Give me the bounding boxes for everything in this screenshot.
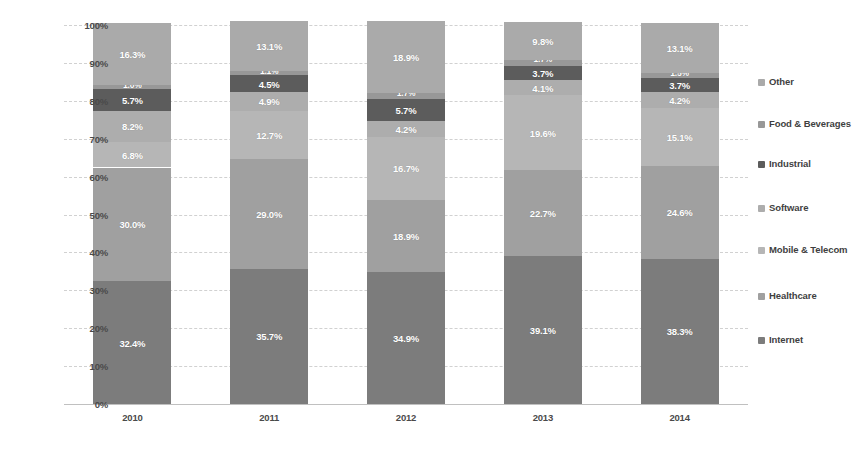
bar-column[interactable]: 39.1%22.7%19.6%4.1%3.7%1.7%9.8% [504, 25, 582, 404]
bar-segment[interactable]: 1.5% [641, 73, 719, 79]
bar-segment-value-label: 16.7% [367, 163, 445, 174]
y-tick-label: 90% [64, 57, 108, 68]
y-tick-label: 20% [64, 323, 108, 334]
legend-item[interactable]: Software [758, 202, 808, 214]
bar-segment[interactable]: 18.9% [367, 200, 445, 272]
bar-segment-value-label: 13.1% [641, 42, 719, 53]
legend-item-label: Other [769, 76, 794, 88]
bar-segment-value-label: 3.7% [504, 67, 582, 78]
bar-segment[interactable]: 6.8% [93, 142, 171, 168]
y-tick-label: 0% [64, 399, 108, 410]
bar-segment[interactable]: 1.7% [367, 93, 445, 99]
bar-segment-value-label: 29.0% [230, 208, 308, 219]
bar-segment[interactable]: 18.9% [367, 21, 445, 93]
bar-segment[interactable]: 5.7% [367, 99, 445, 121]
legend-item[interactable]: Food & Beverages [758, 118, 851, 130]
bar-segment[interactable]: 4.5% [230, 75, 308, 92]
bar-segment[interactable]: 30.0% [93, 168, 171, 282]
bar-segment[interactable]: 4.9% [230, 92, 308, 111]
bar-segment-value-label: 24.6% [641, 207, 719, 218]
bars-layer: 32.4%30.0%6.8%8.2%5.7%1.0%16.3%35.7%29.0… [64, 25, 748, 404]
legend-swatch-icon [758, 121, 765, 128]
x-tick-label: 2013 [504, 412, 582, 423]
bar-segment[interactable]: 16.3% [93, 23, 171, 85]
bar-segment-value-label: 15.1% [641, 131, 719, 142]
bar-column[interactable]: 34.9%18.9%16.7%4.2%5.7%1.7%18.9% [367, 25, 445, 404]
bar-segment-value-label: 12.7% [230, 129, 308, 140]
x-tick-label: 2010 [93, 412, 171, 423]
bar-segment-value-label: 6.8% [93, 149, 171, 160]
bar-segment[interactable]: 19.6% [504, 95, 582, 169]
legend-item[interactable]: Other [758, 76, 794, 88]
bar-segment[interactable]: 3.7% [641, 78, 719, 92]
legend-item[interactable]: Industrial [758, 158, 811, 170]
bar-segment-value-label: 18.9% [367, 230, 445, 241]
bar-segment[interactable]: 1.7% [504, 59, 582, 65]
bar-segment-value-label: 4.5% [230, 78, 308, 89]
bar-segment[interactable]: 4.2% [641, 92, 719, 108]
legend-swatch-icon [758, 205, 765, 212]
legend-swatch-icon [758, 247, 765, 254]
bar-segment-value-label: 4.2% [641, 95, 719, 106]
legend-swatch-icon [758, 161, 765, 168]
bar-segment[interactable]: 22.7% [504, 170, 582, 256]
y-tick-label: 50% [64, 209, 108, 220]
bar-segment-value-label: 19.6% [504, 127, 582, 138]
x-tick-label: 2011 [230, 412, 308, 423]
legend-item-label: Industrial [769, 158, 811, 170]
bar-segment[interactable]: 24.6% [641, 166, 719, 259]
bar-segment[interactable]: 4.1% [504, 80, 582, 96]
bar-column[interactable]: 35.7%29.0%12.7%4.9%4.5%1.1%13.1% [230, 25, 308, 404]
legend-item-label: Mobile & Telecom [769, 244, 847, 256]
bar-segment-value-label: 35.7% [230, 331, 308, 342]
bar-segment[interactable]: 15.1% [641, 108, 719, 165]
y-tick-label: 70% [64, 133, 108, 144]
y-tick-label: 40% [64, 247, 108, 258]
y-tick-label: 30% [64, 285, 108, 296]
bar-segment-value-label: 38.3% [641, 326, 719, 337]
bar-segment-value-label: 34.9% [367, 332, 445, 343]
bar-segment[interactable]: 1.1% [230, 71, 308, 75]
bar-segment[interactable]: 1.0% [93, 85, 171, 89]
bar-segment[interactable]: 9.8% [504, 22, 582, 59]
bar-segment[interactable]: 13.1% [641, 23, 719, 73]
bar-segment-value-label: 32.4% [93, 337, 171, 348]
bar-segment-value-label: 39.1% [504, 324, 582, 335]
bar-segment[interactable]: 29.0% [230, 159, 308, 269]
bar-column[interactable]: 38.3%24.6%15.1%4.2%3.7%1.5%13.1% [641, 25, 719, 404]
bar-segment-value-label: 13.1% [230, 41, 308, 52]
bar-segment-value-label: 5.7% [367, 105, 445, 116]
bar-segment-value-label: 30.0% [93, 219, 171, 230]
bar-segment-value-label: 18.9% [367, 52, 445, 63]
bar-segment[interactable]: 12.7% [230, 111, 308, 159]
bar-segment[interactable]: 38.3% [641, 259, 719, 404]
legend-item-label: Food & Beverages [769, 118, 851, 130]
bar-segment[interactable]: 4.2% [367, 121, 445, 137]
y-tick-label: 60% [64, 171, 108, 182]
legend-item[interactable]: Mobile & Telecom [758, 244, 847, 256]
bar-segment-value-label: 8.2% [93, 121, 171, 132]
x-tick-label: 2012 [367, 412, 445, 423]
bar-segment[interactable]: 3.7% [504, 66, 582, 80]
bar-segment[interactable]: 16.7% [367, 137, 445, 200]
gridline-0 [64, 404, 748, 405]
legend-swatch-icon [758, 293, 765, 300]
bar-segment[interactable]: 39.1% [504, 256, 582, 404]
bar-segment[interactable]: 35.7% [230, 269, 308, 404]
legend-item-label: Internet [769, 334, 803, 346]
legend-item[interactable]: Healthcare [758, 290, 817, 302]
bar-segment-value-label: 4.9% [230, 96, 308, 107]
bar-segment[interactable]: 32.4% [93, 281, 171, 404]
stacked-bar-chart: 32.4%30.0%6.8%8.2%5.7%1.0%16.3%35.7%29.0… [0, 0, 860, 466]
bar-segment-value-label: 3.7% [641, 80, 719, 91]
y-tick-label: 10% [64, 361, 108, 372]
bar-segment-value-label: 22.7% [504, 207, 582, 218]
bar-segment[interactable]: 13.1% [230, 21, 308, 71]
legend-item[interactable]: Internet [758, 334, 803, 346]
bar-segment-value-label: 4.2% [367, 123, 445, 134]
bar-segment[interactable]: 34.9% [367, 272, 445, 404]
plot-area: 32.4%30.0%6.8%8.2%5.7%1.0%16.3%35.7%29.0… [64, 25, 748, 404]
legend-item-label: Software [769, 202, 808, 214]
legend-swatch-icon [758, 79, 765, 86]
y-tick-label: 80% [64, 95, 108, 106]
